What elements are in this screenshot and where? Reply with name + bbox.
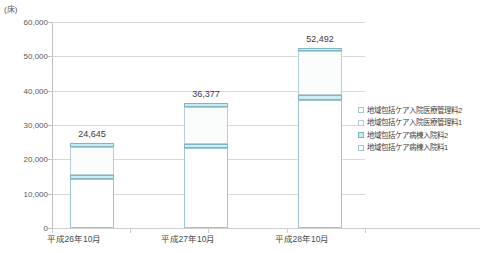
bar-segment[interactable] bbox=[70, 143, 114, 146]
legend-item-2[interactable]: 地域包括ケア病棟入院料2 bbox=[358, 129, 484, 142]
stacked-bar-chart: (床) 60,000 50,000 40,000 30,000 20,000 1… bbox=[0, 0, 484, 253]
gridline-60000 bbox=[52, 22, 365, 23]
y-tick-label-60000: 60,000 bbox=[2, 18, 48, 27]
legend-swatch-icon bbox=[358, 132, 364, 138]
y-tick-label-10000: 10,000 bbox=[2, 190, 48, 199]
legend-item-3[interactable]: 地域包括ケア病棟入院料1 bbox=[358, 142, 484, 155]
y-tick-label-50000: 50,000 bbox=[2, 52, 48, 61]
y-axis-unit-label: (床) bbox=[4, 3, 17, 14]
bar-segment[interactable] bbox=[298, 48, 342, 51]
bar-segment[interactable] bbox=[184, 103, 228, 106]
legend: 地域包括ケア入院医療管理料2 地域包括ケア入院医療管理料1 地域包括ケア病棟入院… bbox=[358, 104, 484, 154]
x-tick-mark-2 bbox=[208, 229, 209, 233]
x-axis-extension-line bbox=[52, 228, 480, 229]
legend-swatch-icon bbox=[358, 107, 364, 113]
x-tick-mark-0 bbox=[52, 229, 53, 233]
bar-total-label: 24,645 bbox=[52, 129, 132, 139]
x-tick-label-1: 平成27年10月 bbox=[128, 232, 248, 244]
plot-area: 24,645 36,377 52,492 bbox=[52, 22, 365, 229]
legend-swatch-icon bbox=[358, 120, 364, 126]
legend-item-1[interactable]: 地域包括ケア入院医療管理料1 bbox=[358, 117, 484, 130]
legend-label-3: 地域包括ケア病棟入院料1 bbox=[367, 143, 448, 152]
x-tick-mark-3 bbox=[287, 229, 288, 233]
bar-segment[interactable] bbox=[184, 148, 228, 228]
bar-segment[interactable] bbox=[298, 100, 342, 228]
y-tick-label-40000: 40,000 bbox=[2, 87, 48, 96]
y-tick-label-30000: 30,000 bbox=[2, 121, 48, 130]
legend-label-0: 地域包括ケア入院医療管理料2 bbox=[367, 106, 462, 115]
bar-total-label: 36,377 bbox=[166, 89, 246, 99]
legend-label-1: 地域包括ケア入院医療管理料1 bbox=[367, 118, 462, 127]
bar-segment[interactable] bbox=[184, 144, 228, 148]
bar-segment[interactable] bbox=[70, 175, 114, 178]
legend-item-0[interactable]: 地域包括ケア入院医療管理料2 bbox=[358, 104, 484, 117]
y-tick-label-20000: 20,000 bbox=[2, 155, 48, 164]
legend-label-2: 地域包括ケア病棟入院料2 bbox=[367, 131, 448, 140]
x-tick-label-0: 平成26年10月 bbox=[14, 232, 134, 244]
bar-segment[interactable] bbox=[70, 179, 114, 228]
bar-segment[interactable] bbox=[298, 51, 342, 95]
x-tick-mark-1 bbox=[130, 229, 131, 233]
bar-total-label: 52,492 bbox=[280, 34, 360, 44]
bar-segment[interactable] bbox=[70, 147, 114, 176]
legend-swatch-icon bbox=[358, 145, 364, 151]
x-tick-label-2: 平成28年10月 bbox=[242, 232, 362, 244]
x-tick-mark-4 bbox=[365, 229, 366, 233]
bar-segment[interactable] bbox=[184, 107, 228, 144]
bar-segment[interactable] bbox=[298, 95, 342, 100]
y-axis-ticks: 60,000 50,000 40,000 30,000 20,000 10,00… bbox=[0, 22, 48, 229]
